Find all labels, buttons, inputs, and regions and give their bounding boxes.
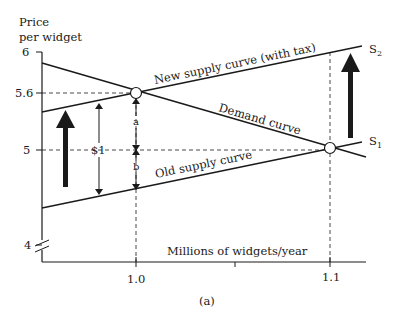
a-label: a	[133, 116, 139, 127]
figure-caption: (a)	[199, 294, 215, 308]
old-supply-curve-label: Old supply curve	[154, 147, 254, 181]
x-tick-1-0: 1.0	[127, 272, 145, 286]
s2-label: S2	[369, 42, 382, 58]
tax-amount-label: $1	[91, 143, 106, 157]
y-tick-5-6: 5.6	[15, 86, 33, 100]
y-tick-5: 5	[23, 143, 30, 157]
y-tick-6: 6	[22, 45, 29, 59]
x-tick-1-1: 1.1	[322, 270, 340, 284]
right-shift-arrow-icon	[341, 53, 360, 138]
equilibrium-without-tax	[325, 143, 336, 154]
s1-label: S1	[369, 134, 382, 150]
old-supply-curve	[42, 142, 362, 208]
b-label: b	[133, 161, 139, 172]
y-tick-4: 4	[24, 238, 31, 252]
demand-curve-label: Demand curve	[217, 100, 303, 137]
y-axis-title-line2: per widget	[19, 30, 82, 44]
left-shift-arrow-icon	[56, 110, 75, 187]
x-axis-title: Millions of widgets/year	[167, 244, 308, 258]
supply-demand-tax-diagram: Price per widget 6 5.6 5 4 Millions of w…	[0, 0, 403, 324]
x-axis	[42, 257, 366, 267]
new-supply-curve-label: New supply curve (with tax)	[153, 40, 317, 87]
new-supply-curve	[42, 46, 362, 112]
equilibrium-with-tax	[131, 88, 142, 99]
y-axis	[35, 52, 49, 262]
y-axis-title-line1: Price	[19, 15, 49, 29]
